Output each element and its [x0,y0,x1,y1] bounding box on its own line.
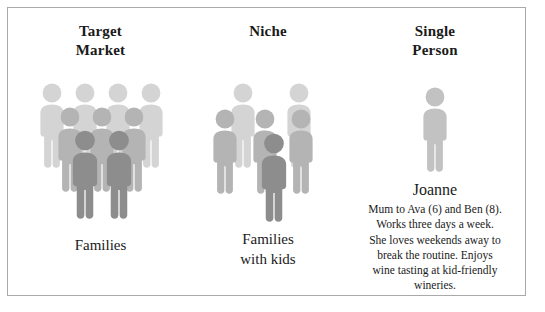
column-heading-niche: Niche [193,22,343,41]
column-caption-target-market: Families [8,236,193,256]
people-group-icon-target-market [8,82,193,212]
persona-description-line: She loves weekends away to [349,233,521,248]
persona-description-line: Works three days a week. [349,217,521,232]
heading-line-1: Single [343,22,527,41]
person-icon-front-2 [98,129,140,219]
person-icon-single [343,86,527,172]
column-single-person: Single Person Joanne Mum to Ava (6) and … [343,8,527,295]
person-icon-joanne [413,86,457,172]
persona-description: Mum to Ava (6) and Ben (8). Works three … [349,202,521,294]
person-icon-middle-1 [205,108,245,194]
column-heading-single-person: Single Person [343,22,527,60]
persona-description-line: break the routine. Enjoys [349,248,521,263]
column-target-market: Target Market [8,8,193,295]
persona-description-line: Mum to Ava (6) and Ben (8). [349,202,521,217]
caption-line-1: Families [193,230,343,250]
heading-line-2: Market [8,41,193,60]
persona-description-line: wine tasting at kid-friendly [349,263,521,278]
heading-line-2: Person [343,41,527,60]
persona-description-line: wineries. [349,278,521,293]
column-niche: Niche [193,8,343,295]
caption-line-1: Families [8,236,193,256]
diagram-frame: Target Market [7,7,526,296]
column-caption-niche: Families with kids [193,230,343,269]
heading-line-1: Target [8,22,193,41]
column-heading-target-market: Target Market [8,22,193,60]
person-icon-front-1 [253,132,295,222]
people-group-icon-niche [193,82,343,212]
persona-name: Joanne [343,180,527,199]
heading-line-1: Niche [193,22,343,41]
caption-line-2: with kids [193,250,343,270]
